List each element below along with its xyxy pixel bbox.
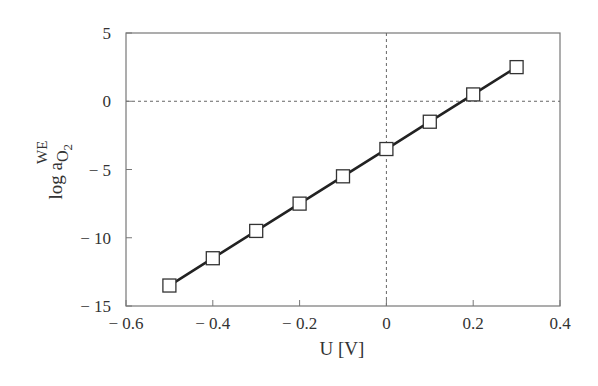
chart: − 0.6− 0.4− 0.200.20.4 50− 5− 10− 15 U [… [0,0,598,386]
square-marker [337,170,350,183]
y-title-sub2: 2 [60,144,75,151]
x-tick-label: − 0.2 [282,314,317,333]
svg-text:log aO2WE: log aO2WE [34,141,75,200]
y-tick-label: 0 [103,92,112,111]
x-tick-label: − 0.4 [195,314,231,333]
square-marker [163,279,176,292]
x-tick-label: 0 [382,314,391,333]
y-axis-title: log aO2WE [34,141,75,200]
square-marker [293,197,306,210]
x-tick-label: 0.4 [549,314,571,333]
y-title-main: log a [45,161,66,199]
y-tick-label: − 5 [89,161,111,180]
square-marker [423,115,436,128]
y-tick-label: − 10 [80,229,111,248]
square-marker [206,252,219,265]
x-axis-title: U [V] [320,338,365,359]
y-title-sub: O [54,150,71,162]
x-axis-tick-labels: − 0.6− 0.4− 0.200.20.4 [108,314,571,333]
x-tick-label: 0.2 [463,314,484,333]
square-marker [250,224,263,237]
y-tick-label: − 15 [80,297,111,316]
x-tick-label: − 0.6 [108,314,143,333]
y-axis-tick-labels: 50− 5− 10− 15 [80,24,111,316]
square-marker [380,143,393,156]
data-markers [163,61,523,292]
y-tick-label: 5 [103,24,112,43]
y-title-sup: WE [34,141,50,164]
square-marker [510,61,523,74]
square-marker [467,88,480,101]
